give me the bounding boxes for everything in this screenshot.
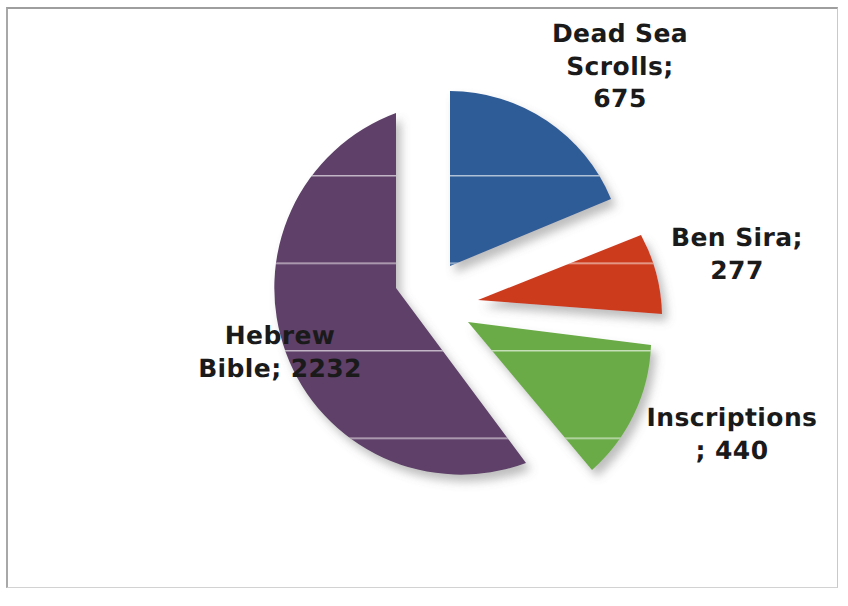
- pie-label-dead-sea-scrolls: Dead Sea Scrolls; 675: [528, 18, 712, 116]
- pie-chart-canvas: [0, 0, 848, 606]
- pie-chart-figure: Dead Sea Scrolls; 675 Ben Sira; 277 Insc…: [0, 0, 848, 606]
- pie-slice-dead-sea-scrolls[interactable]: [450, 91, 611, 266]
- pie-label-hebrew-bible: Hebrew Bible; 2232: [176, 320, 384, 385]
- pie-slice-ben-sira[interactable]: [478, 235, 662, 314]
- pie-label-inscriptions: Inscriptions ; 440: [630, 402, 834, 467]
- pie-label-ben-sira: Ben Sira; 277: [648, 222, 826, 287]
